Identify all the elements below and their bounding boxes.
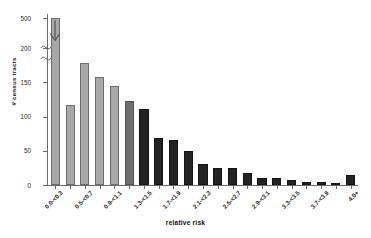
overflow-arrow-icon — [48, 20, 62, 46]
bar-2.5-<2.7 — [228, 168, 237, 185]
y-tick-label: 150 — [7, 79, 31, 86]
bar-1.9-<2.1 — [184, 151, 193, 185]
x-tick — [351, 185, 352, 189]
chart-figure: # census tracts 050100150200500 relative… — [0, 0, 371, 238]
x-tick — [188, 185, 189, 189]
bar-2.9-<3.1 — [257, 178, 266, 185]
y-tick — [43, 82, 47, 83]
bar-0.5-<0.7 — [80, 63, 89, 185]
y-tick-label: 50 — [7, 147, 31, 154]
x-tick — [336, 185, 337, 189]
bar-0.9-<1.1 — [110, 86, 119, 185]
x-tick — [321, 185, 322, 189]
plot-area: 050100150200500 — [47, 14, 357, 185]
bar-3.1-<3.3 — [272, 178, 281, 185]
x-tick — [70, 185, 71, 189]
x-tick — [55, 185, 56, 189]
y-tick-label: 500 — [7, 15, 31, 22]
x-tick — [306, 185, 307, 189]
x-tick — [85, 185, 86, 189]
x-tick — [129, 185, 130, 189]
y-tick-label: 100 — [7, 113, 31, 120]
bar-2.3-<2.5 — [213, 168, 222, 185]
x-tick — [218, 185, 219, 189]
x-tick — [159, 185, 160, 189]
x-tick — [262, 185, 263, 189]
y-tick-label: 200 — [7, 45, 31, 52]
x-tick — [144, 185, 145, 189]
bar-2.7-<2.9 — [243, 173, 252, 185]
y-tick — [43, 18, 47, 19]
bar-0.3-<0.5 — [66, 105, 75, 185]
x-tick — [277, 185, 278, 189]
y-tick — [43, 185, 47, 186]
bar-1.5-<1.7 — [154, 138, 163, 185]
bar-0.7-<0.9 — [95, 77, 104, 185]
x-tick — [114, 185, 115, 189]
bar-4.0+ — [346, 175, 355, 185]
bar-2.1-<2.3 — [198, 164, 207, 185]
y-tick — [43, 48, 47, 49]
x-tick — [203, 185, 204, 189]
x-tick — [100, 185, 101, 189]
x-tick — [233, 185, 234, 189]
x-tick — [247, 185, 248, 189]
x-tick — [173, 185, 174, 189]
x-tick — [292, 185, 293, 189]
y-tick — [43, 151, 47, 152]
bar-1.1-<1.3 — [125, 101, 134, 185]
bar-1.7-<1.9 — [169, 140, 178, 185]
y-tick — [43, 117, 47, 118]
y-tick-label: 0 — [7, 182, 31, 189]
bar-1.3-<1.5 — [139, 109, 148, 185]
